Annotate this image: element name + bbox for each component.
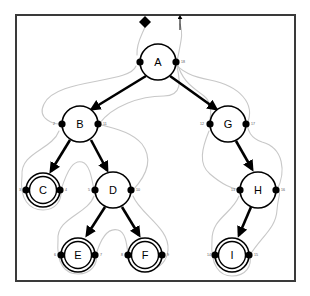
edge-d-f bbox=[122, 207, 139, 235]
node-e-left-port-number: 6 bbox=[54, 253, 56, 257]
edge-g-h bbox=[236, 141, 252, 169]
node-a-left-port-dot bbox=[136, 58, 143, 65]
node-h-left-port-number: 13 bbox=[231, 188, 235, 192]
node-i-right-port-number: 15 bbox=[254, 253, 258, 257]
node-e-right-port-dot bbox=[91, 251, 98, 258]
node-e-left-port-dot bbox=[57, 251, 64, 258]
node-h-left-port-dot bbox=[236, 186, 243, 193]
edge-d-e bbox=[87, 207, 105, 235]
node-c-left-port-number: 3 bbox=[19, 188, 21, 192]
node-g-right-port-dot bbox=[242, 120, 249, 127]
node-g[interactable]: G 12 17 bbox=[200, 106, 255, 142]
node-c-label: C bbox=[39, 184, 47, 196]
edge-a-g bbox=[170, 76, 216, 109]
node-i-label: I bbox=[230, 249, 233, 261]
node-a-right-port-number: 18 bbox=[181, 60, 185, 64]
euler-tour-diagram: A 18 B 2 11 G 12 17 C bbox=[0, 0, 310, 296]
node-e-label: E bbox=[74, 249, 81, 261]
node-h-label: H bbox=[254, 184, 262, 196]
node-a-right-port-dot bbox=[172, 58, 179, 65]
node-g-right-port-number: 17 bbox=[251, 122, 255, 126]
node-i-right-port-dot bbox=[245, 251, 252, 258]
node-i-left-port-dot bbox=[211, 251, 218, 258]
node-c-right-port-dot bbox=[56, 186, 63, 193]
diagram-canvas: A 18 B 2 11 G 12 17 C bbox=[0, 0, 310, 296]
node-c-left-port-dot bbox=[22, 186, 29, 193]
node-f[interactable]: F 8 9 bbox=[121, 238, 169, 272]
node-d-left-port-dot bbox=[91, 186, 98, 193]
node-i-left-port-number: 14 bbox=[207, 253, 211, 257]
node-d-label: D bbox=[109, 184, 117, 196]
edge-b-d bbox=[91, 140, 107, 170]
node-g-left-port-number: 12 bbox=[200, 122, 204, 126]
node-b-right-port-number: 11 bbox=[103, 122, 107, 126]
start-marker-diamond bbox=[139, 16, 151, 28]
node-i[interactable]: I 14 15 bbox=[207, 238, 258, 272]
node-f-right-port-dot bbox=[158, 251, 165, 258]
node-a[interactable]: A 18 bbox=[136, 44, 185, 80]
node-h-right-port-dot bbox=[272, 186, 279, 193]
node-b-label: B bbox=[76, 118, 83, 130]
node-h-right-port-number: 16 bbox=[281, 188, 285, 192]
node-f-right-port-number: 9 bbox=[167, 253, 169, 257]
node-d-right-port-number: 10 bbox=[136, 188, 140, 192]
node-g-left-port-dot bbox=[206, 120, 213, 127]
node-c-right-port-number: 4 bbox=[65, 188, 67, 192]
node-f-left-port-number: 8 bbox=[121, 253, 123, 257]
node-f-label: F bbox=[142, 249, 149, 261]
node-b-left-port-number: 2 bbox=[53, 122, 55, 126]
node-f-left-port-dot bbox=[124, 251, 131, 258]
node-d[interactable]: D 5 10 bbox=[88, 172, 140, 208]
node-g-label: G bbox=[224, 118, 233, 130]
node-d-right-port-dot bbox=[127, 186, 134, 193]
node-e-right-port-number: 7 bbox=[100, 253, 102, 257]
edge-h-i bbox=[239, 207, 251, 235]
node-h[interactable]: H 13 16 bbox=[231, 172, 285, 208]
node-b-left-port-dot bbox=[58, 120, 65, 127]
node-a-label: A bbox=[154, 56, 162, 68]
node-b[interactable]: B 2 11 bbox=[53, 106, 107, 142]
node-d-left-port-number: 5 bbox=[88, 188, 90, 192]
edge-b-c bbox=[51, 140, 70, 171]
node-b-right-port-dot bbox=[94, 120, 101, 127]
node-e[interactable]: E 6 7 bbox=[54, 238, 102, 272]
